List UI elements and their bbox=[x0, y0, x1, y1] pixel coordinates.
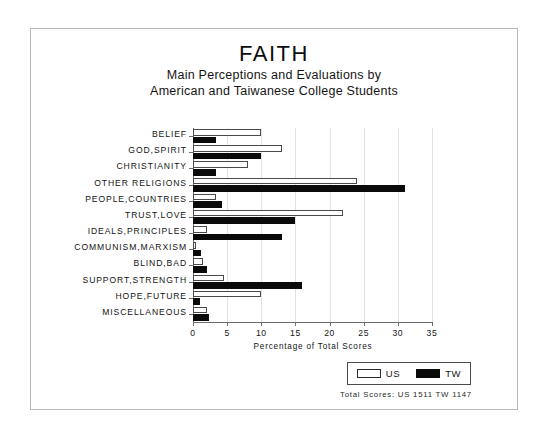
legend-swatch-us bbox=[357, 369, 381, 378]
bar-tw bbox=[193, 169, 216, 176]
bar-us bbox=[193, 275, 224, 282]
bar-us bbox=[193, 226, 207, 233]
y-axis-tick-label: SUPPORT,STRENGTH bbox=[83, 275, 188, 285]
x-axis-tick-label: 0 bbox=[190, 328, 195, 338]
bar-group: BLIND,BAD bbox=[193, 257, 432, 273]
x-axis-tick bbox=[295, 322, 296, 326]
bar-us bbox=[193, 129, 261, 136]
plot-area: BELIEFGOD,SPIRITCHRISTIANITYOTHER RELIGI… bbox=[193, 128, 432, 322]
title-block: FAITH Main Perceptions and Evaluations b… bbox=[31, 41, 517, 99]
legend-item-us: US bbox=[357, 368, 400, 379]
chart-subtitle-line-1: Main Perceptions and Evaluations by bbox=[31, 67, 517, 83]
gridline bbox=[432, 128, 433, 322]
x-axis-tick bbox=[364, 322, 365, 326]
bar-us bbox=[193, 161, 248, 168]
y-axis-tick-label: BELIEF bbox=[152, 129, 187, 139]
bar-group: OTHER RELIGIONS bbox=[193, 177, 432, 193]
y-axis-tick-label: IDEALS,PRINCIPLES bbox=[88, 226, 187, 236]
x-axis-tick bbox=[227, 322, 228, 326]
y-axis-tick-label: OTHER RELIGIONS bbox=[94, 178, 187, 188]
bar-tw bbox=[193, 298, 200, 305]
x-axis-title: Percentage of Total Scores bbox=[193, 342, 433, 351]
y-axis-tick-label: HOPE,FUTURE bbox=[116, 291, 188, 301]
bar-us bbox=[193, 210, 343, 217]
bar-us bbox=[193, 258, 203, 265]
bar-tw bbox=[193, 217, 295, 224]
x-axis-tick-label: 10 bbox=[256, 328, 267, 338]
x-axis-tick-label: 15 bbox=[290, 328, 301, 338]
bar-us bbox=[193, 242, 196, 249]
chart-subtitle-line-2: American and Taiwanese College Students bbox=[31, 83, 517, 99]
bar-tw bbox=[193, 266, 207, 273]
bar-us bbox=[193, 307, 207, 314]
legend-label-tw: TW bbox=[445, 368, 461, 379]
y-axis-tick-label: COMMUNISM,MARXISM bbox=[74, 242, 187, 252]
legend-swatch-tw bbox=[416, 369, 440, 378]
y-axis-tick-label: BLIND,BAD bbox=[134, 258, 187, 268]
y-axis-tick-label: PEOPLE,COUNTRIES bbox=[85, 194, 187, 204]
bar-tw bbox=[193, 234, 282, 241]
legend-item-tw: TW bbox=[416, 368, 461, 379]
bar-group: MISCELLANEOUS bbox=[193, 306, 432, 322]
bar-tw bbox=[193, 185, 405, 192]
x-axis-tick-label: 30 bbox=[392, 328, 403, 338]
y-axis-tick-label: CHRISTIANITY bbox=[117, 161, 187, 171]
figure-frame: FAITH Main Perceptions and Evaluations b… bbox=[30, 28, 518, 410]
bar-tw bbox=[193, 137, 216, 144]
x-axis-tick bbox=[398, 322, 399, 326]
x-axis-tick-label: 5 bbox=[224, 328, 229, 338]
bar-tw bbox=[193, 250, 201, 257]
bar-tw bbox=[193, 153, 261, 160]
bar-group: COMMUNISM,MARXISM bbox=[193, 241, 432, 257]
bar-group: CHRISTIANITY bbox=[193, 160, 432, 176]
bar-us bbox=[193, 291, 261, 298]
bar-tw bbox=[193, 201, 222, 208]
x-axis-tick-label: 25 bbox=[358, 328, 369, 338]
bar-us bbox=[193, 145, 282, 152]
totals-annotation: Total Scores: US 1511 TW 1147 bbox=[311, 390, 501, 399]
bar-group: BELIEF bbox=[193, 128, 432, 144]
y-axis-tick-label: MISCELLANEOUS bbox=[102, 307, 187, 317]
x-axis-tick-label: 35 bbox=[427, 328, 438, 338]
bar-group: PEOPLE,COUNTRIES bbox=[193, 193, 432, 209]
y-axis-tick-label: TRUST,LOVE bbox=[125, 210, 187, 220]
bar-group: GOD,SPIRIT bbox=[193, 144, 432, 160]
x-axis-tick bbox=[432, 322, 433, 326]
y-axis-tick-label: GOD,SPIRIT bbox=[128, 145, 187, 155]
bar-group: HOPE,FUTURE bbox=[193, 290, 432, 306]
legend-label-us: US bbox=[386, 368, 400, 379]
x-axis-tick-label: 20 bbox=[324, 328, 335, 338]
bar-group: IDEALS,PRINCIPLES bbox=[193, 225, 432, 241]
bar-group: SUPPORT,STRENGTH bbox=[193, 274, 432, 290]
bar-tw bbox=[193, 314, 209, 321]
x-axis-tick bbox=[261, 322, 262, 326]
bar-tw bbox=[193, 282, 302, 289]
x-axis-tick bbox=[193, 322, 194, 326]
chart-title: FAITH bbox=[31, 41, 517, 67]
bar-us bbox=[193, 194, 216, 201]
bar-us bbox=[193, 178, 357, 185]
legend: US TW bbox=[347, 362, 471, 385]
x-axis-tick bbox=[330, 322, 331, 326]
bar-group: TRUST,LOVE bbox=[193, 209, 432, 225]
